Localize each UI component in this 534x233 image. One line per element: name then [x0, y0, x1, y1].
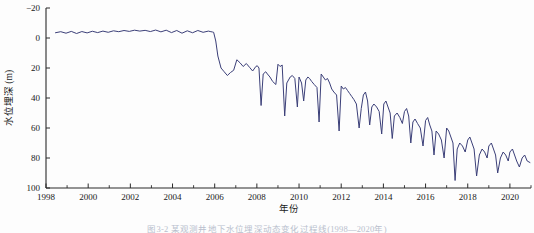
data-series-line: [55, 30, 529, 180]
x-tick-label: 2000: [79, 192, 98, 202]
figure-caption: 图3-2 某观测井地下水位埋深动态变化过程线(1998—2020年): [0, 222, 534, 233]
x-tick-label: 2020: [501, 192, 520, 202]
x-tick-label: 2012: [332, 192, 350, 202]
x-tick-label: 2004: [164, 192, 183, 202]
y-axis-label: 水位埋深 (m): [3, 70, 15, 126]
y-tick-label: −20: [26, 3, 41, 13]
line-chart: −20020406080100 199820002002200420062008…: [0, 0, 534, 233]
y-tick-label: 0: [36, 33, 41, 43]
y-tick-label: 60: [31, 123, 41, 133]
figure-container: −20020406080100 199820002002200420062008…: [0, 0, 534, 233]
x-tick-label: 2016: [417, 192, 436, 202]
x-tick-label: 2010: [290, 192, 309, 202]
x-tick-label: 2008: [248, 192, 267, 202]
x-axis-label: 年份: [279, 203, 299, 214]
x-tick-label: 2006: [206, 192, 225, 202]
x-tick-label: 2018: [459, 192, 478, 202]
x-tick-label: 2002: [121, 192, 139, 202]
y-tick-label: 20: [31, 63, 41, 73]
y-tick-label: 80: [31, 153, 41, 163]
x-axis-tick-labels: 1998200020022004200620082010201220142016…: [37, 192, 519, 202]
x-tick-label: 2014: [374, 192, 393, 202]
y-tick-label: 40: [31, 93, 41, 103]
y-axis-tick-labels: −20020406080100: [26, 3, 41, 193]
x-tick-label: 1998: [37, 192, 56, 202]
y-axis-ticks: [46, 8, 50, 188]
